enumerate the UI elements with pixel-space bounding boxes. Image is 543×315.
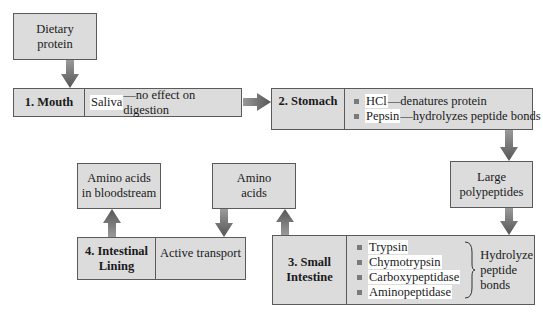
- intestinal-lining-line2: Lining: [99, 259, 134, 273]
- stomach-stage-label: 2. Stomach: [272, 89, 344, 129]
- bullet-icon: [357, 245, 362, 250]
- active-transport-text: Active transport: [160, 246, 241, 261]
- stomach-description: HCl—denatures protein Pepsin—hydrolyzes …: [344, 89, 532, 129]
- saliva-text: —no effect on digestion: [123, 88, 241, 118]
- intestinal-lining-line1: 4. Intestinal: [85, 244, 148, 258]
- bloodstream-line2: in bloodstream: [82, 186, 157, 200]
- bloodstream-box: Amino acidsin bloodstream: [77, 163, 161, 209]
- arrow-up-icon: [276, 209, 294, 235]
- amino-acids-line2: acids: [241, 186, 267, 200]
- small-intestine-line2: Intestine: [286, 270, 333, 284]
- amino-acids-box: Aminoacids: [212, 163, 296, 209]
- intestinal-lining-box: 4. IntestinalLining Active transport: [77, 237, 246, 280]
- enzyme-list: Trypsin Chymotrypsin Carboxypeptidase Am…: [357, 240, 460, 300]
- bullet-icon: [354, 99, 359, 104]
- small-intestine-line1: 3. Small: [288, 255, 331, 269]
- bullet-icon: [357, 260, 362, 265]
- bullet-icon: [354, 114, 359, 119]
- hydrolyze-label: Hydrolyze peptide bonds: [480, 248, 533, 293]
- hydrolyze-line3: bonds: [480, 278, 510, 292]
- amino-acids-line1: Amino: [237, 171, 272, 185]
- mouth-box: 1. Mouth Saliva—no effect on digestion: [13, 88, 242, 117]
- pepsin-text: —hydrolyzes peptide bonds: [400, 109, 540, 123]
- stomach-item-hcl: HCl—denatures protein: [354, 94, 541, 109]
- bullet-icon: [357, 275, 362, 280]
- active-transport-cell: Active transport: [155, 238, 245, 279]
- enzyme-chymotrypsin: Chymotrypsin: [368, 255, 442, 269]
- brace-icon: [464, 240, 476, 300]
- stomach-item-pepsin: Pepsin—hydrolyzes peptide bonds: [354, 109, 541, 124]
- arrow-down-icon: [61, 60, 79, 88]
- mouth-description: Saliva—no effect on digestion: [84, 89, 241, 116]
- enzyme-item: Aminopeptidase: [357, 285, 460, 300]
- small-intestine-stage-label: 3. SmallIntestine: [273, 236, 346, 304]
- bloodstream-line1: Amino acids: [87, 171, 151, 185]
- hcl-text: —denatures protein: [388, 94, 487, 108]
- dietary-protein-line2: protein: [37, 37, 72, 51]
- enzyme-aminopeptidase: Aminopeptidase: [368, 285, 452, 299]
- hcl-highlight: HCl: [365, 94, 388, 108]
- saliva-highlight: Saliva: [90, 95, 123, 110]
- mouth-stage-text: 1. Mouth: [25, 95, 74, 110]
- bullet-icon: [357, 290, 362, 295]
- pepsin-highlight: Pepsin: [365, 109, 400, 123]
- large-polypeptides-line1: Large: [477, 170, 506, 184]
- hydrolyze-line1: Hydrolyze: [480, 248, 533, 262]
- mouth-stage-label: 1. Mouth: [14, 89, 84, 116]
- enzyme-item: Trypsin: [357, 240, 460, 255]
- arrow-down-icon: [500, 130, 518, 161]
- enzyme-item: Chymotrypsin: [357, 255, 460, 270]
- arrow-right-icon: [243, 93, 271, 111]
- stomach-box: 2. Stomach HCl—denatures protein Pepsin—…: [271, 88, 533, 130]
- dietary-protein-line1: Dietary: [36, 22, 73, 36]
- enzyme-item: Carboxypeptidase: [357, 270, 460, 285]
- dietary-protein-box: Dietaryprotein: [13, 13, 97, 60]
- enzyme-carboxypeptidase: Carboxypeptidase: [368, 270, 460, 284]
- arrow-down-icon: [500, 208, 518, 235]
- stomach-stage-text: 2. Stomach: [278, 94, 337, 109]
- large-polypeptides-line2: polypeptides: [460, 185, 524, 199]
- enzyme-trypsin: Trypsin: [368, 240, 408, 254]
- arrow-up-icon: [103, 209, 121, 237]
- small-intestine-description: Trypsin Chymotrypsin Carboxypeptidase Am…: [346, 236, 534, 304]
- small-intestine-box: 3. SmallIntestine Trypsin Chymotrypsin C…: [272, 235, 535, 305]
- intestinal-lining-stage-label: 4. IntestinalLining: [78, 238, 155, 279]
- hydrolyze-line2: peptide: [480, 263, 517, 277]
- large-polypeptides-box: Largepolypeptides: [450, 161, 533, 208]
- arrow-down-icon: [215, 209, 233, 237]
